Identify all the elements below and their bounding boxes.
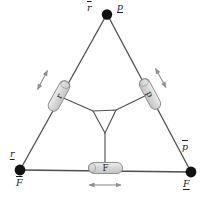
slide-arrow-right xyxy=(156,69,167,88)
vertex-label-top-p: p xyxy=(117,2,123,12)
r-actuator-label: r xyxy=(54,92,63,100)
joint-bottom-right-dot xyxy=(186,167,197,178)
f-actuator-capsule: F xyxy=(88,162,123,174)
joint-bottom-left-dot xyxy=(15,165,26,176)
center-platform-triangle xyxy=(93,110,116,133)
joint-top-dot xyxy=(102,9,112,19)
vertex-label-top-r: r xyxy=(87,3,92,13)
p-actuator-label: p xyxy=(144,90,154,99)
vertex-label-bottom-left-r: r xyxy=(10,149,15,159)
vertex-label-bottom-right-f: F xyxy=(183,179,190,189)
f-actuator-label: F xyxy=(103,164,109,173)
vertex-label-bottom-right-p: p xyxy=(182,142,188,152)
slide-arrow-left xyxy=(38,71,48,90)
linkage-triangle-diagram: r p F r p r F p F xyxy=(0,0,208,197)
vertex-label-bottom-left-f: F xyxy=(16,178,23,188)
